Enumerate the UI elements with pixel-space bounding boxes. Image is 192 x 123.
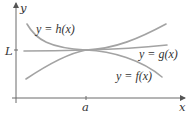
label-g: y = g(x): [138, 47, 178, 61]
x-axis-label: x: [179, 100, 186, 114]
squeeze-theorem-figure: y x L a y = h(x) y = g(x) y = f(x): [0, 0, 192, 123]
y-tick-label-L: L: [4, 44, 13, 58]
label-f: y = f(x): [115, 69, 152, 83]
label-h: y = h(x): [35, 22, 75, 36]
y-axis-label: y: [19, 1, 27, 15]
x-tick-label-a: a: [82, 100, 89, 114]
